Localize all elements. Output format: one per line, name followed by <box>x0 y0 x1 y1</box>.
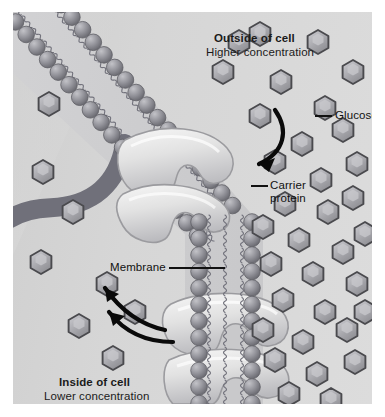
glucose-molecule <box>343 186 364 210</box>
glucose-molecule <box>355 222 372 246</box>
glucose-molecule <box>311 168 332 192</box>
membrane-leader-line <box>169 267 225 269</box>
glucose-molecule <box>321 388 342 404</box>
glucose-molecule <box>271 70 292 94</box>
glucose-molecule <box>347 272 368 296</box>
carrier-protein-label-line1: Carrier <box>270 179 306 191</box>
glucose-molecule <box>307 362 328 386</box>
glucose-molecule <box>261 252 282 276</box>
glucose-molecule <box>333 240 354 264</box>
glucose-molecule <box>337 318 358 342</box>
glucose-molecule <box>253 215 274 239</box>
glucose-molecule <box>213 60 234 84</box>
glucose-molecule <box>355 300 372 324</box>
glucose-molecule <box>315 300 336 324</box>
glucose-molecule <box>279 382 300 404</box>
glucose-molecule <box>345 350 366 374</box>
carrier-protein-leader-line <box>251 185 268 187</box>
glucose-molecule <box>103 346 124 370</box>
illustration-panel: Outside of cell Higher concentration Ins… <box>13 12 372 404</box>
inside-of-cell-subtitle: Lower concentration <box>44 390 149 402</box>
glucose-molecule <box>343 60 364 84</box>
carrier-protein-label-line2: protein <box>270 192 306 204</box>
lipid-heads-vertical-left <box>191 214 208 404</box>
membrane-illustration <box>13 12 372 404</box>
glucose-molecule <box>63 200 84 224</box>
glucose-label: Glucose <box>335 109 372 121</box>
inside-of-cell-title: Inside of cell <box>59 376 130 388</box>
glucose-molecule <box>250 104 271 128</box>
outside-of-cell-title: Outside of cell <box>214 32 295 44</box>
glucose-molecule <box>347 152 368 176</box>
lipid-heads-vertical-right <box>244 214 261 404</box>
glucose-molecule <box>333 118 354 142</box>
glucose-molecule <box>253 318 274 342</box>
glucose-molecule <box>273 288 294 312</box>
glucose-molecule <box>265 348 286 372</box>
diagram-canvas: Outside of cell Higher concentration Ins… <box>0 0 385 417</box>
glucose-molecule <box>289 228 310 252</box>
glucose-molecule <box>31 250 52 274</box>
outside-of-cell-subtitle: Higher concentration <box>206 46 314 58</box>
glucose-leader-line <box>315 115 332 117</box>
glucose-molecule <box>292 132 313 156</box>
glucose-molecule <box>293 330 314 354</box>
glucose-molecule <box>303 262 324 286</box>
glucose-molecule <box>69 314 90 338</box>
glucose-molecule <box>33 160 54 184</box>
glucose-molecule <box>39 92 60 116</box>
membrane-label: Membrane <box>110 261 166 273</box>
glucose-molecule <box>318 200 339 224</box>
